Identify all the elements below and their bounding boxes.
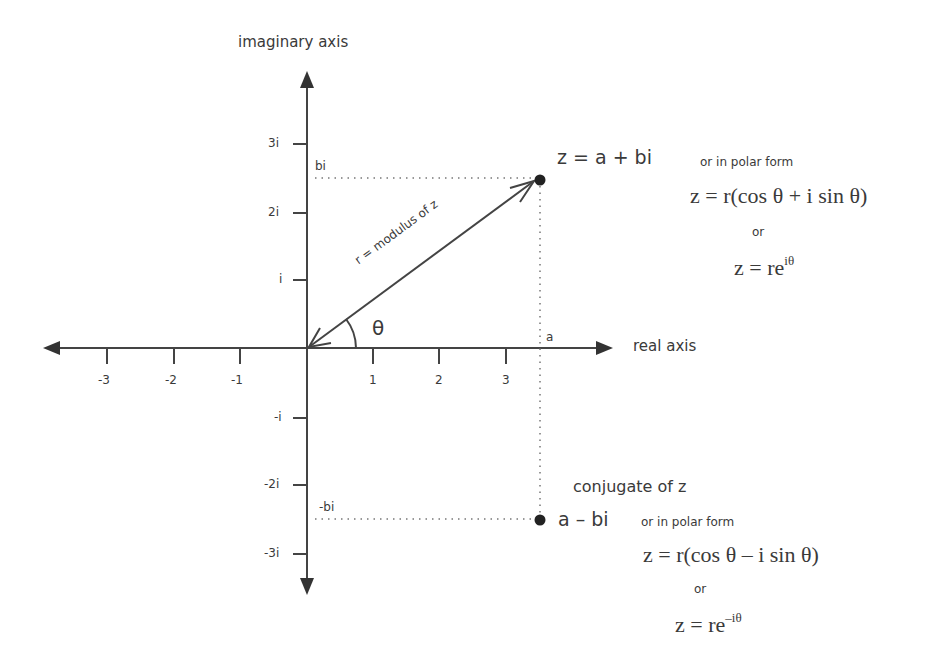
conjugate-exp-power: –iθ [725, 610, 741, 625]
up-arrow-icon [300, 71, 314, 88]
z-exp-power: iθ [784, 253, 794, 268]
y-tick-label: 3i [268, 136, 279, 150]
y-tick-label: 2i [268, 205, 279, 219]
x-tick-label: 2 [435, 373, 443, 387]
neg-bi-label: -bi [319, 500, 334, 514]
z-polar-intro: or in polar form [700, 155, 793, 169]
theta-label: θ [372, 316, 384, 340]
x-tick-label: -2 [165, 373, 177, 387]
a-label: a [546, 330, 553, 344]
y-tick-label: -2i [264, 477, 279, 491]
imaginary-axis [293, 71, 314, 595]
down-arrow-icon [300, 578, 314, 595]
x-tick-label: -1 [231, 373, 243, 387]
x-tick-label: -3 [98, 373, 110, 387]
imaginary-axis-label: imaginary axis [238, 33, 348, 51]
z-exp-formula: z = reiθ [734, 253, 794, 281]
right-arrow-icon [596, 341, 613, 355]
z-exp-base: z = re [734, 255, 784, 280]
conjugate-title: conjugate of z [573, 477, 686, 496]
conjugate-exp-formula: z = re–iθ [675, 610, 742, 638]
conjugate-equation: a – bi [558, 508, 609, 530]
angle-arc [346, 319, 356, 348]
bi-label: bi [315, 159, 326, 173]
conjugate-polar-intro: or in polar form [641, 515, 734, 529]
z-equation: z = a + bi [557, 146, 652, 168]
point-z [535, 175, 546, 186]
y-tick-label: i [279, 272, 282, 286]
z-or-label: or [752, 225, 764, 239]
left-arrow-icon [43, 341, 60, 355]
conjugate-polar-formula: z = r(cos θ – i sin θ) [643, 542, 819, 568]
conjugate-exp-base: z = re [675, 612, 725, 637]
real-axis-label: real axis [633, 337, 696, 355]
conjugate-or-label: or [694, 582, 706, 596]
x-tick-label: 3 [502, 373, 510, 387]
x-tick-label: 1 [369, 373, 377, 387]
point-conjugate [535, 515, 546, 526]
y-tick-label: -3i [264, 546, 279, 560]
z-polar-formula: z = r(cos θ + i sin θ) [690, 183, 867, 209]
y-tick-label: -i [274, 410, 282, 424]
